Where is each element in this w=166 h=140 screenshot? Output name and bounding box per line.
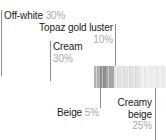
leader-line-cream (50, 41, 51, 81)
callout-topaz-gold-luster-label: Topaz gold luster (38, 22, 113, 34)
color-distribution-chart: Off-white 30% Topaz gold luster 10% Crea… (0, 0, 166, 140)
callout-creamy-beige: Creamy beige 25% (98, 97, 152, 132)
band-cream (106, 66, 114, 88)
callout-beige-label: Beige (57, 107, 82, 118)
callout-off-white: Off-white 30% (4, 8, 65, 21)
leader-line-off-white (1, 10, 2, 76)
callout-off-white-percent: 30% (46, 10, 66, 21)
callout-creamy-beige-percent: 25% (98, 120, 152, 132)
callout-beige-percent: 5% (85, 107, 99, 118)
callout-creamy-beige-label-line2: beige (98, 109, 152, 121)
leader-line-creamy-beige (155, 82, 156, 140)
callout-cream: Cream 30% (53, 41, 83, 64)
band-creamy-beige (141, 66, 165, 88)
callout-cream-label: Cream (53, 41, 83, 53)
callout-beige: Beige 5% (57, 105, 99, 118)
callout-creamy-beige-label-line1: Creamy (98, 97, 152, 109)
callout-cream-percent: 30% (53, 53, 83, 65)
band-off-white (114, 66, 141, 88)
callout-off-white-label: Off-white (4, 10, 43, 21)
leader-line-topaz-gold-luster (115, 24, 116, 71)
color-strip (94, 66, 166, 88)
